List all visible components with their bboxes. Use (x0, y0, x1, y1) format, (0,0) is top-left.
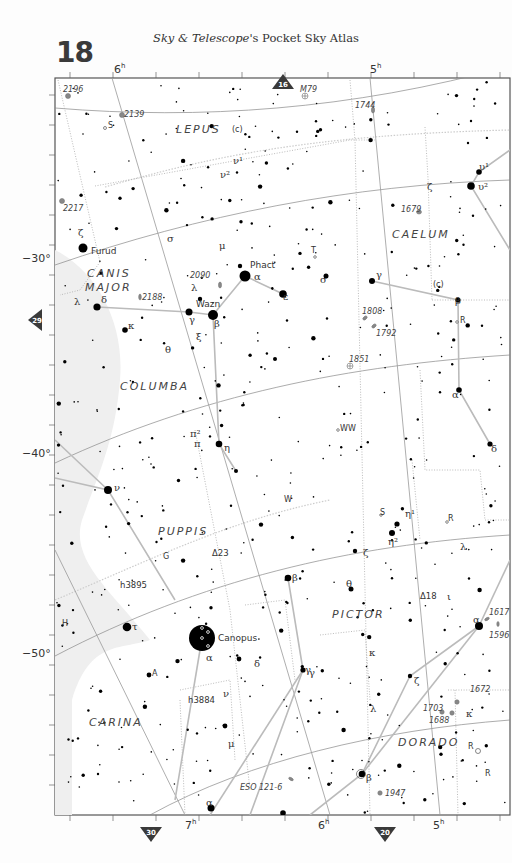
star (79, 244, 88, 253)
star (273, 357, 277, 361)
star (104, 486, 112, 494)
bayer-letter: γ (305, 664, 311, 675)
variable-star-label: (c) (232, 125, 243, 134)
deep-sky-label: 2217 (63, 204, 84, 213)
constellation-name: MAJOR (85, 281, 132, 294)
nav-arrow-down-left[interactable]: 30 (140, 827, 162, 842)
variable-star-label: H (62, 619, 68, 628)
bayer-letter: α (206, 652, 213, 663)
declination-label: −40° (22, 447, 51, 460)
variable-star-label: R (485, 769, 491, 778)
deep-sky-label: 2090 (190, 271, 210, 280)
bayer-letter: η² (388, 536, 398, 547)
star (93, 303, 100, 310)
bayer-letter: β (455, 295, 461, 306)
star (240, 271, 251, 282)
bayer-letter: β (366, 772, 372, 783)
bayer-letter: α (473, 614, 480, 625)
constellation-name: LEPUS (176, 123, 221, 136)
bayer-letter: δ (101, 294, 107, 305)
deep-sky-label: 2139 (124, 110, 144, 119)
bayer-letter: γ (189, 314, 195, 325)
bayer-letter: α (206, 797, 213, 808)
cluster-2196 (66, 94, 71, 99)
constellation-name: CAELUM (392, 228, 450, 241)
star-name: Phact (250, 260, 276, 270)
bayer-letter: β (214, 318, 220, 329)
bayer-letter: δ (491, 443, 497, 454)
deep-sky-label: 1688 (429, 716, 449, 725)
bayer-letter: γ (376, 269, 382, 280)
nav-arrow-down-left-label: 30 (146, 829, 156, 837)
star (122, 327, 128, 333)
variable-star-label: T (310, 246, 316, 255)
star (353, 549, 357, 553)
star (369, 278, 375, 284)
star (285, 575, 292, 582)
bayer-letter: κ (369, 647, 376, 658)
star (216, 441, 223, 448)
deep-sky-label: 1808 (362, 307, 382, 316)
bayer-letter: κ (466, 708, 473, 719)
bayer-letter: α (254, 271, 261, 282)
deep-sky-label: M79 (300, 85, 317, 94)
bayer-letter: σ (320, 274, 327, 285)
deep-sky-label: 1947 (385, 789, 406, 798)
constellation-name: PUPPIS (158, 525, 208, 538)
star (189, 625, 215, 651)
bayer-letter: ζ (78, 227, 84, 238)
double-star-label: Δ23 (212, 548, 229, 558)
variable-star-label: W (284, 495, 292, 504)
variable-star-label: R (468, 742, 474, 751)
bayer-letter: θ (165, 344, 171, 355)
deep-sky-label: 2196 (63, 85, 83, 94)
galaxy-2188 (139, 294, 142, 300)
star (394, 521, 399, 526)
cluster-1947 (378, 791, 382, 795)
bayer-letter: ζ (414, 675, 420, 686)
constellation-name: COLUMBA (120, 380, 189, 393)
double-star-label: h3895 (120, 580, 147, 590)
bayer-letter: σ (167, 233, 174, 244)
double-star-label: Δ18 (420, 591, 437, 601)
star-name: Wazn (196, 299, 220, 309)
atlas-page: 18 Sky & Telescope's Pocket Sky Atlas (0, 0, 512, 863)
deep-sky-label: 1679 (401, 205, 421, 214)
star (123, 623, 132, 632)
star (237, 657, 242, 662)
constellation-name: CANIS (87, 267, 131, 280)
bayer-letter: τ (132, 621, 138, 632)
star (408, 674, 412, 678)
bayer-letter: λ (370, 703, 377, 714)
bayer-letter: ζ (363, 547, 369, 558)
bayer-letter: υ² (478, 181, 488, 192)
bayer-letter: ν¹ (233, 155, 243, 166)
bayer-letter: δ (254, 658, 260, 669)
variable-star-label: (c) (433, 280, 444, 289)
deep-sky-label: 1672 (470, 685, 490, 694)
ra-hour-label: 6h (114, 62, 125, 76)
bayer-letter: η¹ (405, 508, 415, 519)
constellation-name: PICTOR (332, 608, 385, 621)
variable-star-label: S (108, 121, 113, 130)
bayer-letter: β (292, 572, 298, 583)
nav-arrow-left[interactable]: 29 (28, 309, 42, 331)
galaxy-2217 (60, 199, 65, 204)
bayer-letter: ε (283, 291, 288, 302)
bayer-letter: η (224, 442, 230, 453)
variable-star-label: S (380, 508, 385, 517)
nav-arrow-down-right[interactable]: 20 (374, 827, 396, 842)
bayer-letter: ν (114, 482, 120, 493)
star-name: Furud (91, 246, 117, 256)
declination-label: −50° (22, 647, 51, 660)
bayer-letter: α (452, 389, 459, 400)
double-star-label: h3884 (188, 695, 215, 705)
deep-sky-label: 1851 (349, 355, 369, 364)
bayer-letter: ν (223, 688, 229, 699)
variable-star-label: A (152, 669, 158, 678)
variable-star-label: R (460, 316, 466, 325)
ra-hour-label: 6h (318, 818, 329, 832)
constellation-name: CARINA (89, 716, 143, 729)
ra-hour-label: 5h (433, 818, 444, 832)
bayer-letter: υ¹ (479, 161, 489, 172)
